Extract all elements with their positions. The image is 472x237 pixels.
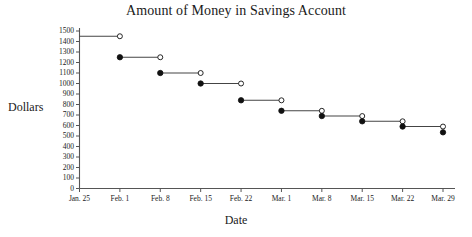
- y-tick-label: 500: [40, 131, 74, 140]
- y-tick-label: 200: [40, 163, 74, 172]
- y-tick-label: 700: [40, 110, 74, 119]
- closed-endpoint-marker: [238, 98, 243, 103]
- closed-endpoint-marker: [440, 130, 445, 135]
- closed-endpoint-marker: [158, 70, 163, 75]
- y-tick-label: 1200: [40, 58, 74, 67]
- axes: [80, 28, 456, 189]
- y-tick-label: 800: [40, 100, 74, 109]
- open-endpoint-marker: [360, 114, 365, 119]
- chart-figure: Amount of Money in Savings Account Dolla…: [0, 0, 472, 237]
- x-tick-label: Mar. 29: [419, 194, 467, 203]
- y-tick-label: 1400: [40, 37, 74, 46]
- closed-endpoint-marker: [198, 81, 203, 86]
- y-tick-label: 1100: [40, 68, 74, 77]
- open-endpoint-marker: [400, 119, 405, 124]
- y-tick-label: 600: [40, 121, 74, 130]
- open-endpoint-marker: [441, 124, 446, 129]
- open-endpoint-marker: [319, 108, 324, 113]
- open-endpoint-marker: [239, 81, 244, 86]
- y-tick-label: 0: [40, 184, 74, 193]
- y-tick-label: 300: [40, 152, 74, 161]
- open-endpoint-marker: [279, 98, 284, 103]
- closed-endpoint-marker: [360, 119, 365, 124]
- closed-endpoint-marker: [117, 55, 122, 60]
- open-endpoint-marker: [198, 71, 203, 76]
- y-tick-label: 900: [40, 89, 74, 98]
- closed-endpoint-marker: [400, 124, 405, 129]
- closed-endpoint-marker: [279, 108, 284, 113]
- open-endpoint-marker: [158, 55, 163, 60]
- open-endpoint-marker: [117, 34, 122, 39]
- y-tick-label: 1000: [40, 79, 74, 88]
- y-tick-label: 1300: [40, 47, 74, 56]
- y-tick-label: 100: [40, 173, 74, 182]
- data-series: [80, 34, 446, 135]
- closed-endpoint-marker: [319, 113, 324, 118]
- y-tick-label: 1500: [40, 26, 74, 35]
- y-tick-label: 400: [40, 142, 74, 151]
